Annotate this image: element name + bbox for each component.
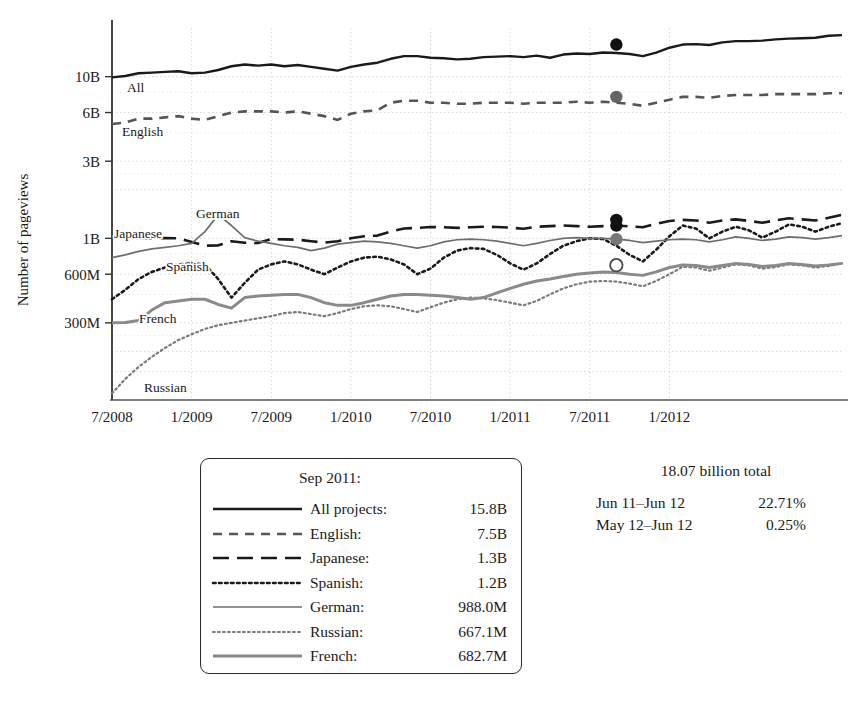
legend-row[interactable]: Spanish:1.2B: [211, 571, 511, 596]
legend-series-value: 988.0M: [421, 598, 511, 616]
growth-stat-row: Jun 11–Jun 1222.71%: [596, 492, 836, 514]
marker-all-projects: [610, 38, 622, 50]
y-tick-label: 600M: [64, 267, 100, 283]
y-tick-label: 10B: [75, 69, 100, 85]
legend-series-name: German:: [304, 598, 421, 616]
inline-label-all: All: [127, 80, 145, 95]
series-line-spanish: [112, 223, 842, 299]
legend-rows: All projects:15.8BEnglish:7.5BJapanese:1…: [211, 497, 511, 669]
legend-series-name: Russian:: [304, 623, 421, 641]
legend-series-name: French:: [304, 647, 421, 665]
legend-series-name: Japanese:: [304, 549, 421, 567]
legend-panel: Sep 2011: All projects:15.8BEnglish:7.5B…: [200, 458, 522, 674]
y-tick-label: 1B: [82, 231, 100, 247]
growth-stat-row: May 12–Jun 120.25%: [596, 514, 836, 536]
x-tick-label: 7/2011: [569, 409, 610, 425]
y-tick-label: 6B: [82, 105, 100, 121]
y-axis-title: Number of pageviews: [15, 174, 31, 307]
y-tick-label: 300M: [64, 315, 100, 331]
legend-series-value: 7.5B: [421, 525, 511, 543]
series-line-german: [112, 215, 842, 258]
legend-series-value: 667.1M: [421, 623, 511, 641]
legend-line-swatch: [211, 576, 304, 590]
inline-label-english: English: [122, 124, 164, 139]
x-tick-label: 1/2011: [490, 409, 531, 425]
inline-label-german: German: [196, 206, 240, 221]
legend-line-swatch: [211, 551, 304, 565]
growth-percent-value: 22.71%: [734, 492, 806, 514]
legend-line-swatch: [211, 625, 304, 639]
series-line-english: [112, 93, 842, 124]
legend-line-swatch: [211, 600, 304, 614]
marker-french: [610, 259, 622, 271]
legend-series-value: 1.3B: [421, 549, 511, 567]
legend-series-name: Spanish:: [304, 574, 421, 592]
legend-series-value: 15.8B: [421, 500, 511, 518]
series-line-french: [112, 263, 842, 322]
chart-container: 10B6B3B1B600M300M7/20081/20097/20091/201…: [0, 0, 852, 440]
x-tick-label: 1/2010: [330, 409, 372, 425]
x-tick-label: 1/2012: [649, 409, 691, 425]
legend-series-name: English:: [304, 525, 421, 543]
pageviews-line-chart: 10B6B3B1B600M300M7/20081/20097/20091/201…: [0, 0, 852, 440]
legend-row[interactable]: All projects:15.8B: [211, 497, 511, 522]
legend-row[interactable]: Japanese:1.3B: [211, 546, 511, 571]
growth-period-label: Jun 11–Jun 12: [596, 492, 734, 514]
inline-label-japanese: Japanese: [114, 226, 162, 241]
pageviews-chart-page: 10B6B3B1B600M300M7/20081/20097/20091/201…: [0, 0, 852, 712]
legend-series-value: 1.2B: [421, 574, 511, 592]
x-tick-label: 7/2008: [91, 409, 133, 425]
growth-stats-rows: Jun 11–Jun 1222.71%May 12–Jun 120.25%: [596, 492, 836, 537]
legend-row[interactable]: English:7.5B: [211, 522, 511, 547]
legend-line-swatch: [211, 502, 304, 516]
legend-series-name: All projects:: [304, 500, 421, 518]
inline-label-spanish: Spanish: [166, 259, 209, 274]
legend-row[interactable]: French:682.7M: [211, 644, 511, 669]
inline-label-russian: Russian: [144, 380, 187, 395]
total-pageviews-label: 18.07 billion total: [596, 462, 836, 480]
growth-percent-value: 0.25%: [734, 514, 806, 536]
legend-title: Sep 2011:: [299, 469, 361, 487]
inline-series-labels: AllAllEnglishEnglishJapaneseJapaneseGerm…: [114, 80, 240, 395]
series-markers: [610, 38, 622, 271]
x-tick-label: 1/2009: [171, 409, 213, 425]
legend-line-swatch: [211, 527, 304, 541]
growth-period-label: May 12–Jun 12: [596, 514, 734, 536]
x-tick-label: 7/2010: [410, 409, 452, 425]
legend-line-swatch: [211, 649, 304, 663]
legend-row[interactable]: Russian:667.1M: [211, 620, 511, 645]
x-tick-label: 7/2009: [250, 409, 292, 425]
marker-spanish: [610, 219, 622, 231]
marker-german: [610, 233, 622, 245]
legend-series-value: 682.7M: [421, 647, 511, 665]
legend-row[interactable]: German:988.0M: [211, 595, 511, 620]
series-line-all-projects: [112, 35, 842, 77]
stats-panel: 18.07 billion total Jun 11–Jun 1222.71%M…: [596, 462, 836, 537]
y-tick-label: 3B: [82, 154, 100, 170]
marker-english: [610, 91, 622, 103]
inline-label-french: French: [139, 311, 177, 326]
